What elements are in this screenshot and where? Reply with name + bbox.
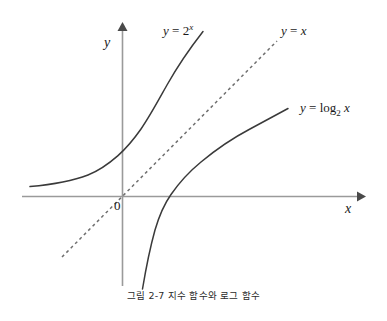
label-logarithm-base: 2 <box>336 108 341 118</box>
label-identity-lhs: y <box>281 23 287 38</box>
x-axis-label: x <box>345 202 351 216</box>
label-logarithm-fn: log <box>320 100 337 115</box>
function-graph-svg <box>0 0 387 321</box>
curve-exponential <box>30 32 203 187</box>
figure-container: y = 2x y = x y = log2 x y x 0 그림 2-7 지수 … <box>0 0 387 321</box>
label-logarithm-eq: = <box>309 100 316 115</box>
label-logarithm-arg: x <box>344 100 350 115</box>
label-exponential-lhs: y <box>163 23 169 38</box>
label-exponential-eq: = <box>172 23 179 38</box>
origin-label: 0 <box>114 199 121 212</box>
curve-logarithm <box>143 109 289 290</box>
label-identity-eq: = <box>290 23 297 38</box>
x-axis-arrowhead <box>357 192 366 202</box>
label-exponential-function: y = 2x <box>163 24 193 37</box>
label-logarithm-lhs: y <box>300 100 306 115</box>
identity-line-y-equals-x <box>62 41 277 257</box>
label-identity-function: y = x <box>281 24 306 37</box>
label-identity-rhs: x <box>301 23 307 38</box>
figure-caption: 그림 2-7 지수 함수와 로그 함수 <box>0 288 387 302</box>
label-logarithm-function: y = log2 x <box>300 101 350 114</box>
label-exponential-exponent: x <box>189 22 193 32</box>
y-axis-label: y <box>104 36 110 50</box>
y-axis-arrowhead <box>118 22 128 31</box>
